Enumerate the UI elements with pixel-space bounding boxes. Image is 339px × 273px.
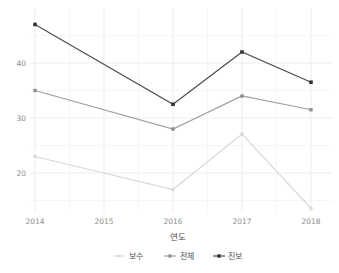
legend-swatch-boesu-marker <box>118 255 121 258</box>
y-tick-label-20: 20 <box>16 169 26 178</box>
legend-item-boesu[interactable]: 보수 <box>113 252 143 261</box>
x-tick-label-2017: 2017 <box>232 217 251 226</box>
legend-item-jeonche[interactable]: 전체 <box>164 251 194 261</box>
legend-swatch-jinbo-marker <box>217 254 220 257</box>
line-chart: 40 30 20 2014 2015 2016 2017 2018 연도 보수 … <box>0 0 339 273</box>
y-tick-label-30: 30 <box>16 114 26 123</box>
x-axis-title: 연도 <box>170 232 186 242</box>
legend-label-boesu: 보수 <box>129 252 143 261</box>
legend-swatch-jeonche-marker <box>168 254 171 257</box>
legend-item-jinbo[interactable]: 진보 <box>213 251 242 261</box>
legend: 보수 전체 진보 <box>113 251 242 261</box>
x-tick-label-2016: 2016 <box>163 217 182 226</box>
x-tick-label-2018: 2018 <box>301 217 320 226</box>
y-tick-label-40: 40 <box>16 59 26 68</box>
legend-label-jinbo: 진보 <box>228 251 242 261</box>
legend-label-jeonche: 전체 <box>180 251 194 261</box>
x-tick-label-2014: 2014 <box>25 217 44 226</box>
x-tick-label-2015: 2015 <box>94 217 113 226</box>
